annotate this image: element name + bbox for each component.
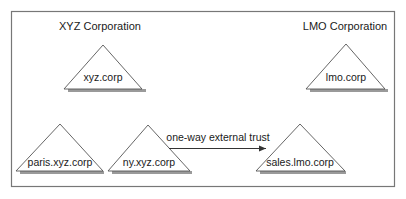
- domain-label: xyz.corp: [83, 71, 122, 83]
- domain-paris-xyz-corp: paris.xyz.corp: [16, 124, 104, 174]
- domain-label: ny.xyz.corp: [123, 156, 175, 168]
- org-label-xyz: XYZ Corporation: [59, 20, 141, 32]
- domain-label: paris.xyz.corp: [28, 156, 93, 168]
- domain-label: lmo.corp: [326, 71, 366, 83]
- domain-lmo-corp: lmo.corp: [306, 44, 388, 92]
- org-label-lmo: LMO Corporation: [303, 20, 387, 32]
- trust-label: one-way external trust: [166, 131, 269, 143]
- trust-arrow: one-way external trust: [166, 131, 269, 149]
- domain-xyz-corp: xyz.corp: [64, 45, 146, 92]
- trust-diagram: XYZ Corporation LMO Corporation xyz.corp…: [0, 0, 406, 199]
- domain-label: sales.lmo.corp: [266, 156, 334, 168]
